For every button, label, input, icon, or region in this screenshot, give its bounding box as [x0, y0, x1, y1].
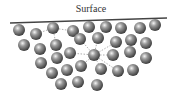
- molecule-diagram: [0, 0, 175, 100]
- molecule: [100, 21, 112, 33]
- molecule: [125, 34, 137, 46]
- molecule: [18, 39, 30, 51]
- molecule: [72, 76, 84, 88]
- molecule: [61, 64, 73, 76]
- molecule: [75, 60, 87, 72]
- molecule: [47, 22, 59, 34]
- molecule: [107, 49, 119, 61]
- molecule: [46, 67, 58, 79]
- molecule: [115, 22, 127, 34]
- molecule: [112, 65, 124, 77]
- molecule: [91, 79, 103, 91]
- molecule: [13, 24, 25, 36]
- molecule: [124, 46, 136, 58]
- molecule: [83, 21, 95, 33]
- molecule: [92, 32, 104, 44]
- molecule: [55, 78, 67, 90]
- molecule: [110, 36, 122, 48]
- molecule: [34, 43, 46, 55]
- molecule: [50, 39, 62, 51]
- molecule: [51, 52, 63, 64]
- molecule: [140, 37, 152, 49]
- molecule: [149, 19, 161, 31]
- molecule: [140, 52, 152, 64]
- molecule: [35, 57, 47, 69]
- molecule: [95, 63, 107, 75]
- molecules: [13, 19, 161, 91]
- molecule: [30, 28, 42, 40]
- molecule: [88, 49, 100, 61]
- molecule: [64, 47, 76, 59]
- molecule: [127, 64, 139, 76]
- molecule: [134, 22, 146, 34]
- molecule: [74, 33, 86, 45]
